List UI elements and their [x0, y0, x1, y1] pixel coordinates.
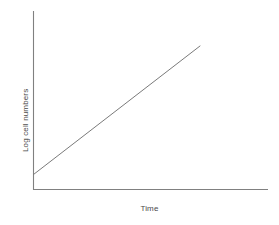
growth-line-series: [34, 46, 201, 175]
y-axis-label: Log cell numbers: [22, 89, 30, 152]
chart-figure: Log cell numbers Time: [0, 0, 279, 225]
x-axis-label: Time: [10, 205, 279, 213]
line-chart-plot: [0, 0, 279, 225]
